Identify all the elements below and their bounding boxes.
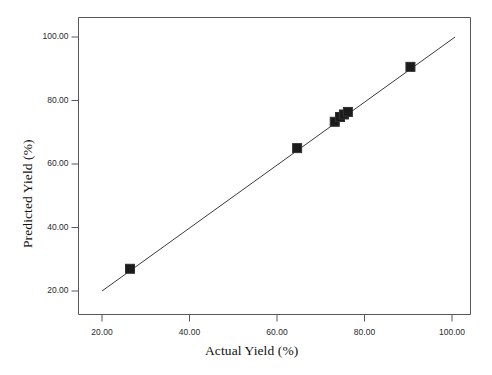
x-axis-title: Actual Yield (%)	[205, 343, 298, 359]
y-tick-label: 40.00	[29, 222, 69, 232]
y-tick-label: 60.00	[29, 158, 69, 168]
plot-canvas	[0, 0, 492, 375]
identity-fit-line	[102, 37, 455, 291]
x-tick-label: 80.00	[343, 327, 387, 337]
y-tick-label: 100.00	[29, 31, 69, 41]
y-tick-label: 20.00	[29, 285, 69, 295]
x-tick-label: 60.00	[255, 327, 299, 337]
scatter-plot-figure: Predicted Yield (%) Actual Yield (%) 20.…	[0, 0, 492, 375]
y-tick-label: 80.00	[29, 95, 69, 105]
x-tick-label: 100.00	[430, 327, 474, 337]
data-point-markers	[126, 62, 415, 273]
y-axis-title: Predicted Yield (%)	[20, 139, 36, 248]
x-tick-label: 20.00	[80, 327, 124, 337]
x-tick-label: 40.00	[168, 327, 212, 337]
